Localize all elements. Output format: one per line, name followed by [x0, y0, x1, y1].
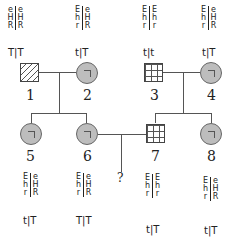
genotype-7: Ehr Ehr [144, 174, 161, 198]
individual-3-square [144, 63, 163, 82]
hook-mark-icon [28, 131, 35, 138]
genotype-3: Ehr Ehr [141, 6, 158, 30]
t-genotype-2: t|T [75, 47, 88, 58]
label-8: 8 [207, 148, 216, 164]
drop-6 [86, 113, 87, 123]
descent-line-1-2 [59, 72, 60, 114]
genotype-1: eHR eHR [7, 6, 24, 30]
drop-7 [155, 113, 156, 123]
descent-line-6-7 [121, 134, 122, 172]
hook-mark-icon [84, 131, 91, 138]
label-7: 7 [151, 148, 160, 164]
label-5: 5 [26, 148, 35, 164]
genotype-6: Ehr eHR [75, 173, 92, 197]
t-genotype-7: t|T [146, 224, 159, 235]
hook-mark-icon [84, 70, 91, 77]
individual-5-circle [20, 123, 42, 145]
individual-1-square [20, 63, 39, 82]
hook-mark-icon [208, 70, 215, 77]
t-genotype-1: T|T [8, 47, 24, 58]
hook-mark-icon [208, 131, 215, 138]
label-2: 2 [83, 87, 92, 103]
label-3: 3 [150, 87, 159, 103]
drop-5 [31, 113, 32, 123]
unknown-child: ? [117, 171, 123, 185]
individual-4-circle [200, 62, 222, 84]
descent-line-3-4 [183, 72, 184, 114]
marriage-line-3-4 [163, 72, 200, 73]
t-genotype-8: t|T [204, 225, 217, 236]
individual-7-square [146, 124, 165, 143]
genotype-8: Ehr eHR [202, 177, 219, 201]
individual-2-circle [76, 62, 98, 84]
label-6: 6 [83, 148, 92, 164]
t-genotype-3: t|t [143, 47, 154, 58]
individual-8-circle [200, 123, 222, 145]
genotype-2: Ehr eHR [74, 6, 91, 30]
sibship-line-1-2 [31, 113, 86, 114]
individual-6-circle [76, 123, 98, 145]
t-genotype-6: T|T [76, 215, 92, 226]
label-1: 1 [26, 87, 35, 103]
marriage-line-1-2 [39, 72, 76, 73]
sibship-line-3-4 [155, 113, 211, 114]
drop-8 [211, 113, 212, 123]
t-genotype-5: t|T [23, 215, 36, 226]
label-4: 4 [207, 87, 216, 103]
marriage-line-6-7 [98, 134, 146, 135]
t-genotype-4: t|T [202, 47, 215, 58]
genotype-4: Ehr eHR [200, 6, 217, 30]
genotype-5: Ehr eHR [22, 173, 39, 197]
